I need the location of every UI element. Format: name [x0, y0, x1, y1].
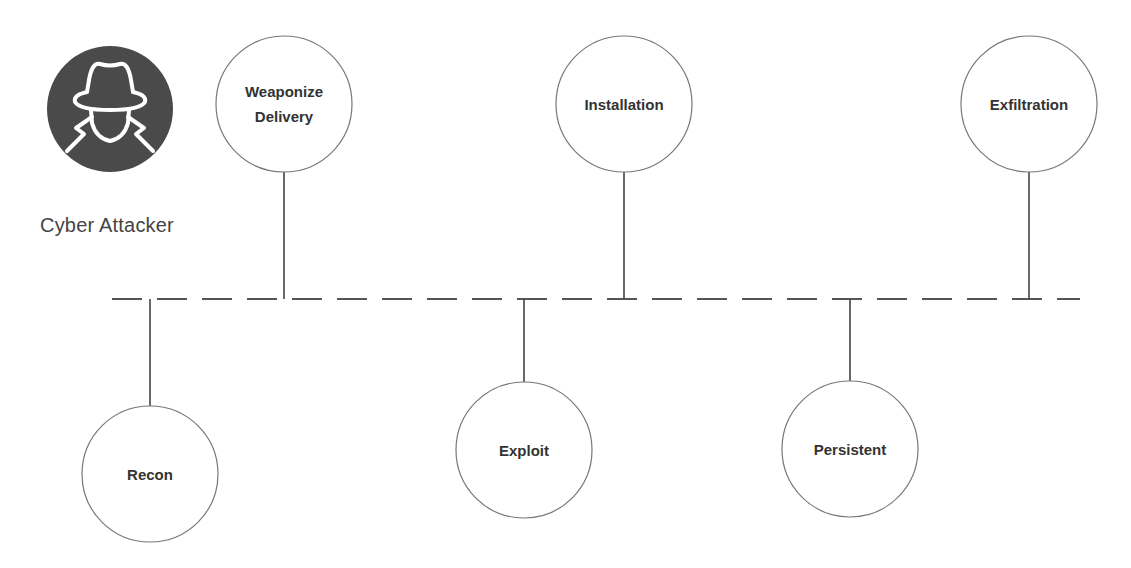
stage-label-line: Recon: [127, 462, 173, 487]
stage-label-installation: Installation: [584, 92, 663, 117]
stage-node-weaponize-delivery: [216, 36, 352, 299]
stage-node-persistent: [782, 299, 918, 517]
stage-node-installation: [556, 36, 692, 299]
stage-node-exploit: [456, 299, 592, 518]
stage-label-recon: Recon: [127, 462, 173, 487]
stage-label-line: Exploit: [499, 438, 549, 463]
stage-label-exploit: Exploit: [499, 438, 549, 463]
stage-label-persistent: Persistent: [814, 437, 887, 462]
stage-label-weaponize-delivery: WeaponizeDelivery: [245, 79, 323, 129]
stage-node-recon: [82, 299, 218, 542]
stage-label-line: Persistent: [814, 437, 887, 462]
stage-label-exfiltration: Exfiltration: [990, 92, 1068, 117]
stage-node-exfiltration: [961, 36, 1097, 299]
stage-label-line: Delivery: [245, 104, 323, 129]
stage-label-line: Weaponize: [245, 79, 323, 104]
actor-label: Cyber Attacker: [40, 214, 174, 237]
stage-label-line: Installation: [584, 92, 663, 117]
hacker-spy-icon: [47, 46, 173, 172]
stage-label-line: Exfiltration: [990, 92, 1068, 117]
